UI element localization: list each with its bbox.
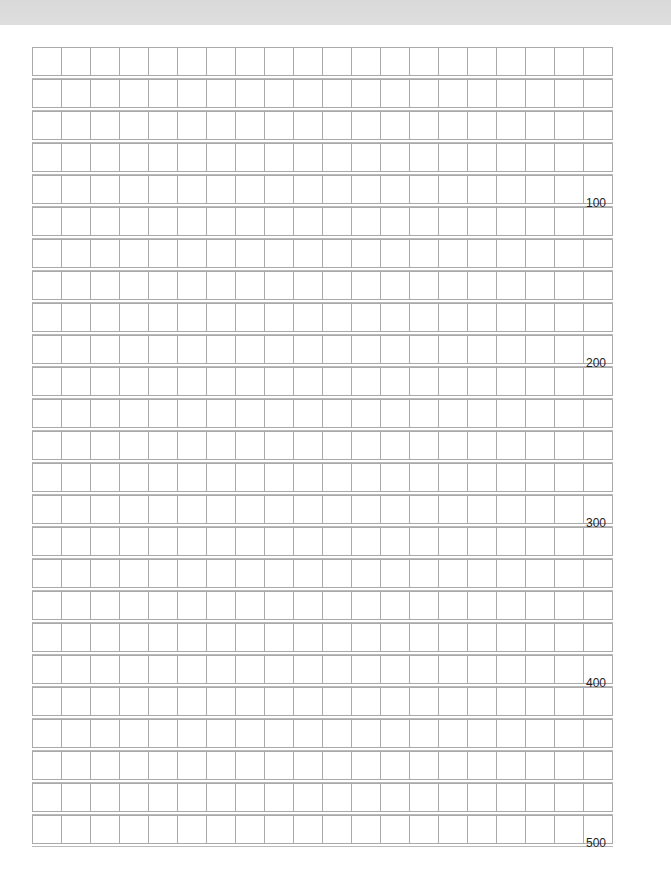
grid-cell bbox=[62, 432, 91, 459]
grid-cell bbox=[381, 336, 410, 363]
grid-row bbox=[32, 591, 613, 620]
grid-cell bbox=[439, 464, 468, 491]
grid-cell bbox=[439, 496, 468, 523]
grid-cell bbox=[120, 240, 149, 267]
grid-cell bbox=[265, 720, 294, 747]
grid-cell bbox=[555, 400, 584, 427]
grid-cell bbox=[410, 304, 439, 331]
grid-cell bbox=[33, 496, 62, 523]
grid-cell bbox=[468, 560, 497, 587]
grid-cell bbox=[294, 464, 323, 491]
grid-cell bbox=[62, 176, 91, 203]
grid-cell bbox=[207, 528, 236, 555]
grid-cell bbox=[323, 272, 352, 299]
grid-cell bbox=[149, 48, 178, 75]
grid-cell bbox=[381, 560, 410, 587]
grid-cell bbox=[149, 816, 178, 843]
grid-cell bbox=[207, 432, 236, 459]
grid-cell bbox=[381, 464, 410, 491]
grid-cell bbox=[381, 176, 410, 203]
grid-cell bbox=[207, 656, 236, 683]
grid-row bbox=[32, 207, 613, 236]
grid-cell bbox=[91, 144, 120, 171]
grid-cell bbox=[207, 496, 236, 523]
grid-cell bbox=[323, 336, 352, 363]
grid-cell bbox=[120, 176, 149, 203]
grid-cell bbox=[178, 144, 207, 171]
grid-row bbox=[32, 783, 613, 812]
grid-cell bbox=[33, 144, 62, 171]
grid-cell bbox=[91, 592, 120, 619]
grid-cell bbox=[555, 816, 584, 843]
grid-cell bbox=[62, 464, 91, 491]
grid-cell bbox=[497, 464, 526, 491]
grid-cell bbox=[265, 304, 294, 331]
grid-cell bbox=[468, 464, 497, 491]
grid-cell bbox=[526, 656, 555, 683]
grid-cell bbox=[120, 304, 149, 331]
grid-cell bbox=[178, 304, 207, 331]
grid-cell bbox=[294, 240, 323, 267]
grid-cell bbox=[526, 400, 555, 427]
grid-cell bbox=[526, 688, 555, 715]
grid-cell bbox=[294, 432, 323, 459]
grid-cell bbox=[323, 144, 352, 171]
grid-cell bbox=[352, 336, 381, 363]
grid-cell bbox=[236, 336, 265, 363]
grid-cell bbox=[265, 240, 294, 267]
grid-cell bbox=[352, 80, 381, 107]
grid-cell bbox=[265, 656, 294, 683]
grid-cell bbox=[352, 48, 381, 75]
grid-cell bbox=[33, 464, 62, 491]
grid-cell bbox=[62, 720, 91, 747]
grid-cell bbox=[207, 240, 236, 267]
grid-cell bbox=[33, 656, 62, 683]
grid-cell bbox=[149, 80, 178, 107]
grid-cell bbox=[33, 528, 62, 555]
grid-cell bbox=[381, 48, 410, 75]
grid-cell bbox=[468, 496, 497, 523]
grid-cell bbox=[207, 464, 236, 491]
grid-cell bbox=[236, 592, 265, 619]
grid-cell bbox=[410, 176, 439, 203]
grid-cell bbox=[178, 112, 207, 139]
grid-cell bbox=[236, 432, 265, 459]
grid-cell bbox=[381, 528, 410, 555]
grid-cell bbox=[439, 240, 468, 267]
grid-cell bbox=[149, 176, 178, 203]
grid-cell bbox=[236, 496, 265, 523]
grid-cell bbox=[265, 464, 294, 491]
grid-cell bbox=[497, 816, 526, 843]
grid-cell bbox=[468, 336, 497, 363]
grid-row bbox=[32, 655, 613, 684]
grid-cell bbox=[236, 816, 265, 843]
grid-cell bbox=[207, 272, 236, 299]
grid-cell bbox=[381, 400, 410, 427]
grid-cell bbox=[33, 432, 62, 459]
grid-cell bbox=[236, 208, 265, 235]
grid-row bbox=[32, 367, 613, 396]
grid-cell bbox=[120, 336, 149, 363]
grid-cell bbox=[323, 80, 352, 107]
grid-cell bbox=[91, 432, 120, 459]
grid-cell bbox=[584, 560, 612, 587]
grid-cell bbox=[584, 528, 612, 555]
grid-cell bbox=[497, 432, 526, 459]
grid-cell bbox=[526, 240, 555, 267]
grid-cell bbox=[352, 560, 381, 587]
grid-cell bbox=[323, 464, 352, 491]
grid-cell bbox=[178, 528, 207, 555]
grid-cell bbox=[294, 400, 323, 427]
grid-cell bbox=[555, 432, 584, 459]
grid-cell bbox=[526, 368, 555, 395]
grid-cell bbox=[120, 112, 149, 139]
grid-cell bbox=[555, 144, 584, 171]
grid-cell bbox=[323, 304, 352, 331]
grid-cell bbox=[62, 240, 91, 267]
grid-cell bbox=[497, 240, 526, 267]
grid-cell bbox=[33, 240, 62, 267]
grid-cell bbox=[497, 752, 526, 779]
grid-row bbox=[32, 431, 613, 460]
grid-cell bbox=[526, 272, 555, 299]
grid-cell bbox=[265, 816, 294, 843]
